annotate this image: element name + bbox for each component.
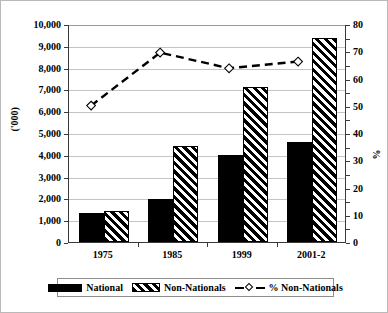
y-axis-right-tick-mark	[346, 202, 350, 203]
y-axis-right-tick-label: 80	[353, 20, 383, 30]
solid-black-swatch-icon	[48, 284, 82, 292]
y-axis-left-tick-label: 10,000	[5, 20, 61, 30]
y-axis-right-tick-label: 50	[353, 102, 383, 112]
bar-non-nationals	[312, 38, 337, 242]
legend-label-non-nationals: Non-Nationals	[164, 282, 226, 293]
gridline	[69, 47, 345, 48]
x-axis-tick-label: 1975	[73, 249, 133, 260]
y-axis-right-tick-mark	[346, 148, 350, 149]
y-axis-right-tick-mark	[346, 39, 350, 40]
gridline	[69, 25, 345, 26]
y-axis-right-tick-mark	[346, 175, 350, 176]
y-axis-right-tick-label: 20	[353, 184, 383, 194]
gridline	[69, 69, 345, 70]
y-axis-right-tick-mark	[346, 66, 350, 67]
bar-non-nationals	[243, 87, 268, 242]
y-axis-right-tick-mark	[346, 134, 350, 135]
bar-non-nationals	[173, 146, 198, 242]
y-axis-right-tick-mark	[346, 107, 350, 108]
y-axis-left-tick-label: 7,000	[5, 85, 61, 95]
y-axis-right-tick-mark	[346, 243, 350, 244]
x-axis-tick-label: 1999	[212, 249, 272, 260]
y-axis-left-tick-label: 6,000	[5, 107, 61, 117]
bar-national	[79, 213, 104, 242]
y-axis-right-tick-mark	[346, 216, 350, 217]
y-axis-right-tick-label: 70	[353, 47, 383, 57]
x-axis-tick-mark	[207, 243, 208, 247]
hatched-swatch-icon	[132, 283, 160, 292]
gridline	[69, 90, 345, 91]
y-axis-right-tick-label: 0	[353, 238, 383, 248]
legend-label-national: National	[86, 282, 123, 293]
plot-area	[68, 25, 346, 243]
y-axis-right-tick-mark	[346, 229, 350, 230]
legend-item-pct-non-nationals: % Non-Nationals	[235, 282, 343, 293]
y-axis-left-tick-label: 9,000	[5, 42, 61, 52]
y-axis-left-tick-label: 1,000	[5, 216, 61, 226]
y-axis-left-tick-label: 0	[5, 238, 61, 248]
y-axis-right-tick-mark	[346, 25, 350, 26]
y-axis-left-tick-mark	[64, 243, 68, 244]
bar-national	[287, 142, 312, 242]
x-axis-tick-label: 1985	[142, 249, 202, 260]
x-axis-tick-mark	[277, 243, 278, 247]
chart-legend: National Non-Nationals % Non-Nationals	[57, 278, 334, 297]
y-axis-right-tick-mark	[346, 80, 350, 81]
legend-label-pct-non-nationals: % Non-Nationals	[269, 282, 343, 293]
y-axis-right-tick-mark	[346, 189, 350, 190]
y-axis-right-tick-mark	[346, 120, 350, 121]
x-axis-tick-label: 2001-2	[281, 249, 341, 260]
legend-item-national: National	[48, 282, 123, 293]
y-axis-left-tick-label: 2,000	[5, 194, 61, 204]
y-axis-right-tick-mark	[346, 52, 350, 53]
bar-national	[218, 155, 243, 242]
y-axis-left-tick-label: 3,000	[5, 173, 61, 183]
chart-container: ('000) % 01,0002,0003,0004,0005,0006,000…	[0, 0, 388, 313]
y-axis-right-tick-label: 60	[353, 75, 383, 85]
y-axis-right-tick-mark	[346, 93, 350, 94]
y-axis-right-tick-label: 40	[353, 129, 383, 139]
y-axis-left-tick-label: 4,000	[5, 151, 61, 161]
y-axis-right-tick-label: 10	[353, 211, 383, 221]
y-axis-left-tick-label: 5,000	[5, 129, 61, 139]
legend-item-non-nationals: Non-Nationals	[132, 282, 226, 293]
y-axis-right-tick-mark	[346, 161, 350, 162]
dashed-line-diamond-marker-icon	[235, 283, 265, 292]
gridline	[69, 134, 345, 135]
bar-non-nationals	[104, 211, 129, 242]
y-axis-left-tick-label: 8,000	[5, 64, 61, 74]
bar-national	[148, 199, 173, 242]
x-axis-tick-mark	[138, 243, 139, 247]
y-axis-right-tick-label: 30	[353, 156, 383, 166]
gridline	[69, 112, 345, 113]
